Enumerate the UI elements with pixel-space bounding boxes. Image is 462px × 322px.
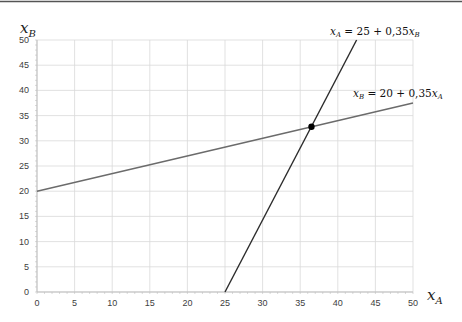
svg-text:30: 30	[19, 136, 29, 146]
svg-text:50: 50	[408, 298, 418, 308]
svg-text:45: 45	[19, 60, 29, 70]
svg-text:0: 0	[24, 287, 29, 297]
x-axis-label: xA	[427, 286, 443, 306]
svg-text:15: 15	[19, 211, 29, 221]
chart: 0510152025303540455005101520253035404550…	[0, 0, 462, 322]
svg-text:30: 30	[258, 298, 268, 308]
svg-text:35: 35	[19, 111, 29, 121]
svg-text:35: 35	[295, 298, 305, 308]
svg-text:10: 10	[19, 237, 29, 247]
svg-text:15: 15	[145, 298, 155, 308]
intersection-point	[308, 124, 314, 130]
y-axis-label: xB	[20, 19, 36, 39]
svg-text:40: 40	[333, 298, 343, 308]
svg-text:20: 20	[182, 298, 192, 308]
svg-text:10: 10	[107, 298, 117, 308]
svg-text:0: 0	[34, 298, 39, 308]
svg-text:5: 5	[72, 298, 77, 308]
svg-text:5: 5	[24, 262, 29, 272]
equation-line-a: xA = 25 + 0,35xB	[330, 25, 420, 39]
svg-text:25: 25	[220, 298, 230, 308]
svg-text:20: 20	[19, 186, 29, 196]
svg-text:40: 40	[19, 85, 29, 95]
svg-text:45: 45	[370, 298, 380, 308]
equation-line-b: xB = 20 + 0,35xA	[353, 87, 443, 101]
svg-text:25: 25	[19, 161, 29, 171]
minor-ticks	[35, 40, 413, 294]
gridlines	[37, 40, 413, 292]
